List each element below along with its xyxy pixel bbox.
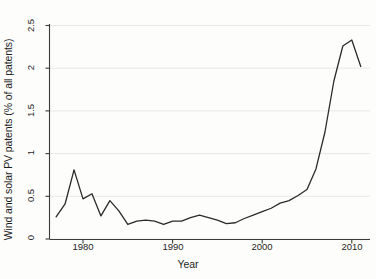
plot-area	[0, 0, 376, 279]
axis-ticks	[46, 26, 352, 244]
data-line-wind-solar-pv	[56, 40, 361, 224]
chart-figure: Wind and solar PV patents (% of all pate…	[0, 0, 376, 279]
